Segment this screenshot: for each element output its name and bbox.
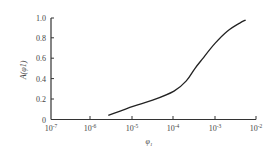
x-axis-label: φ1	[146, 137, 153, 147]
y-tick-label: 0.4	[36, 75, 46, 84]
x-tick-label: 10-3	[209, 123, 222, 133]
y-tick-label: 0.2	[36, 95, 46, 104]
x-tick-label: 10-4	[167, 123, 180, 133]
y-tick-label: 0.8	[36, 34, 46, 43]
y-tick-label: 0.6	[36, 54, 46, 63]
y-tick-label: 1.0	[36, 14, 46, 23]
x-tick-label: 10-7	[45, 123, 58, 133]
x-tick-label: 10-5	[126, 123, 139, 133]
y-axis-label: A(φ1)	[19, 60, 28, 80]
x-tick-label: 10-2	[250, 123, 263, 133]
chart: 0 0.2 0.4 0.6 0.8 1.0 10-7 10-6 10-5 10-…	[0, 0, 275, 152]
y-tick-labels: 0 0.2 0.4 0.6 0.8 1.0	[36, 14, 46, 125]
data-line	[108, 20, 245, 115]
x-tick-label: 10-6	[84, 123, 97, 133]
x-tick-labels: 10-7 10-6 10-5 10-4 10-3 10-2	[45, 123, 263, 133]
